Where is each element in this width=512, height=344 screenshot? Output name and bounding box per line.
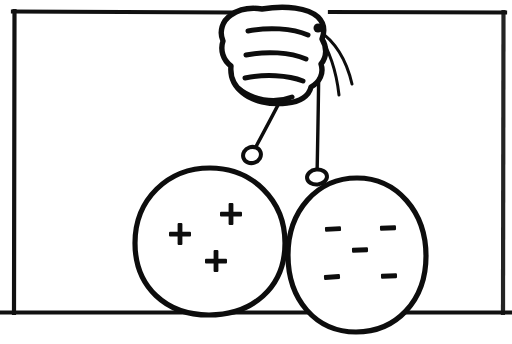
left-ball-outline [135,168,285,315]
frame-top-edge [13,12,232,13]
ball-left-positive[interactable] [135,145,285,315]
illustration-canvas: Hand holding two charged balls on string… [0,0,512,344]
left-ball-knot-loop [241,145,263,166]
minus-charge [381,273,397,278]
frame-top-edge-right [330,12,505,13]
right-ball-knot-loop [306,168,327,185]
minus-charge [380,225,396,230]
frame-right-edge [503,12,504,313]
right-ball-outline [288,178,426,332]
minus-charge [352,247,368,252]
string-grip-point [314,24,323,33]
drawing-surface [0,0,512,344]
minus-charge [325,226,341,232]
ball-right-negative[interactable] [288,168,426,332]
frame-left-edge [14,11,15,313]
hand-fist[interactable] [221,7,325,103]
